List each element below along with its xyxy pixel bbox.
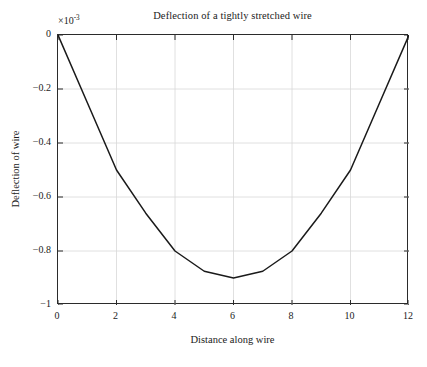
x-axis-title: Distance along wire (57, 334, 408, 346)
y-axis-exponent-power: -3 (74, 14, 80, 22)
chart-title: Deflection of a tightly stretched wire (57, 10, 408, 22)
x-tick-label: 10 (330, 310, 370, 321)
x-tick-label: 4 (154, 310, 194, 321)
x-tick-label: 6 (213, 310, 253, 321)
y-tick-label: 0 (11, 28, 51, 39)
x-tick-label: 0 (37, 310, 77, 321)
chart-figure: Deflection of a tightly stretched wire ×… (0, 0, 427, 367)
x-tick-label: 2 (96, 310, 136, 321)
y-axis-exponent-base: ×10 (58, 15, 74, 26)
y-axis-exponent-label: ×10-3 (58, 15, 80, 27)
y-tick-label: −0.8 (11, 244, 51, 255)
x-tick-label: 8 (271, 310, 311, 321)
vertical-gridlines (117, 35, 351, 305)
plot-canvas (58, 35, 409, 305)
y-axis-title: Deflection of wire (10, 109, 22, 229)
y-tick-label: −0.2 (11, 82, 51, 93)
y-tick-label: −1 (11, 298, 51, 309)
x-tick-label: 12 (388, 310, 427, 321)
plot-area (57, 34, 408, 304)
